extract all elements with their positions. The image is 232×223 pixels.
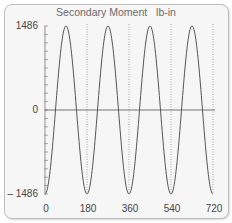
plot-area xyxy=(0,0,232,223)
vertical-gridlines xyxy=(87,24,213,194)
